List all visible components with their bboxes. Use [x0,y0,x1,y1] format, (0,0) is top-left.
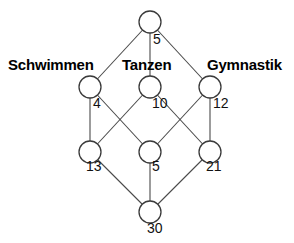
node-lower-left-value: 13 [86,159,102,173]
graph-canvas [0,0,294,243]
node-bottom-value: 30 [147,221,163,235]
node-top-value: 5 [153,32,161,46]
node-lower-middle-value: 5 [152,159,160,173]
label-schwimmen: Schwimmen [8,57,94,72]
edge-top-schwimmen [90,22,150,87]
node-tanzen-value: 10 [152,96,168,110]
label-gymnastik: Gymnastik [207,57,282,72]
node-schwimmen-value: 4 [93,96,101,110]
edge-layer [90,22,210,212]
label-tanzen: Tanzen [122,57,171,72]
node-lower-right-value: 21 [206,159,222,173]
node-gymnastik-value: 12 [213,96,229,110]
node-top[interactable] [139,11,161,33]
diagram-root: SchwimmenTanzenGymnastik 5410121352130 [0,0,294,243]
